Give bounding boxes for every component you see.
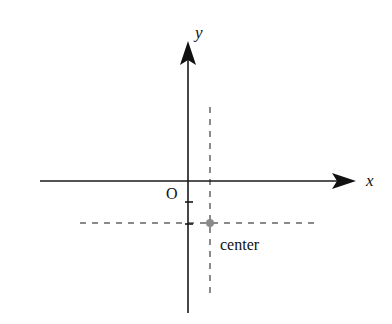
y-axis-label: y: [193, 23, 203, 42]
center-label: center: [220, 236, 260, 253]
center-point: [206, 219, 214, 227]
coordinate-diagram: y x O center: [0, 0, 392, 324]
origin-label: O: [166, 185, 178, 202]
x-axis-label: x: [365, 171, 374, 190]
